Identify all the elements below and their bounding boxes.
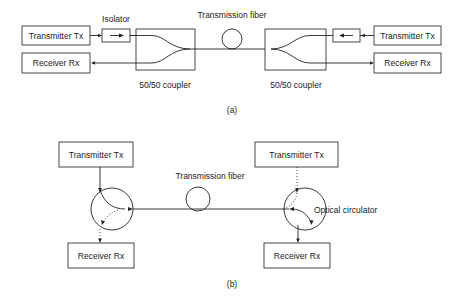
panel-b-left-circulator	[91, 167, 133, 243]
arrowhead-icon	[361, 34, 365, 37]
panel-a-right-receiver-label: Receiver Rx	[384, 58, 431, 68]
panel-a: Transmitter Tx Receiver Rx Isolator 50/5…	[22, 10, 441, 115]
diagram-canvas: Transmitter Tx Receiver Rx Isolator 50/5…	[0, 0, 463, 298]
panel-b-right-receiver-label: Receiver Rx	[274, 251, 321, 261]
panel-a-left-receiver-label: Receiver Rx	[33, 58, 80, 68]
panel-a-right-receiver: Receiver Rx	[374, 53, 441, 73]
panel-b-right-transmitter: Transmitter Tx	[255, 142, 338, 167]
panel-b-left-receiver: Receiver Rx	[68, 243, 134, 268]
panel-a-right-coupler-label: 50/50 coupler	[270, 80, 322, 90]
arrowhead-icon	[101, 220, 105, 225]
circulator-icon	[91, 188, 133, 230]
fiber-spool-icon	[186, 187, 210, 211]
panel-a-right-isolator	[333, 29, 360, 42]
panel-a-transmission-fiber: Transmission fiber	[190, 10, 271, 49]
panel-b-left-receiver-label: Receiver Rx	[78, 251, 125, 261]
panel-a-caption: (a)	[227, 105, 238, 115]
arrowhead-icon	[98, 239, 102, 244]
panel-b-left-transmitter-label: Transmitter Tx	[69, 150, 124, 160]
panel-b-fiber-label: Transmission fiber	[175, 171, 244, 181]
panel-a-right-transmitter: Transmitter Tx	[374, 26, 441, 45]
circulator-label: Optical circulator	[314, 205, 377, 215]
arrowhead-icon	[98, 34, 102, 37]
arrowhead-icon	[91, 61, 95, 64]
panel-b-left-transmitter: Transmitter Tx	[59, 142, 133, 167]
panel-b-right-receiver: Receiver Rx	[264, 243, 330, 268]
panel-b-right-circulator: Optical circulator	[283, 167, 377, 243]
arrowhead-icon	[296, 239, 300, 244]
panel-a-left-transmitter-label: Transmitter Tx	[29, 31, 84, 41]
arrowhead-icon	[370, 61, 374, 64]
panel-b: Transmitter Tx Receiver Rx Transmission …	[59, 142, 377, 289]
panel-a-right-transmitter-label: Transmitter Tx	[380, 31, 435, 41]
panel-a-left-isolator: Isolator	[102, 14, 130, 42]
panel-a-left-transmitter: Transmitter Tx	[22, 26, 90, 45]
arrowhead-icon	[310, 220, 314, 225]
panel-b-caption: (b)	[227, 279, 238, 289]
panel-a-left-receiver: Receiver Rx	[22, 53, 90, 73]
panel-a-fiber-label: Transmission fiber	[197, 10, 266, 20]
panel-a-left-coupler-label: 50/50 coupler	[139, 80, 191, 90]
panel-b-transmission-fiber: Transmission fiber	[133, 171, 289, 211]
isolator-label: Isolator	[102, 14, 130, 24]
panel-b-right-transmitter-label: Transmitter Tx	[269, 150, 324, 160]
fiber-spool-icon	[222, 29, 242, 49]
arrowhead-icon	[128, 207, 133, 211]
